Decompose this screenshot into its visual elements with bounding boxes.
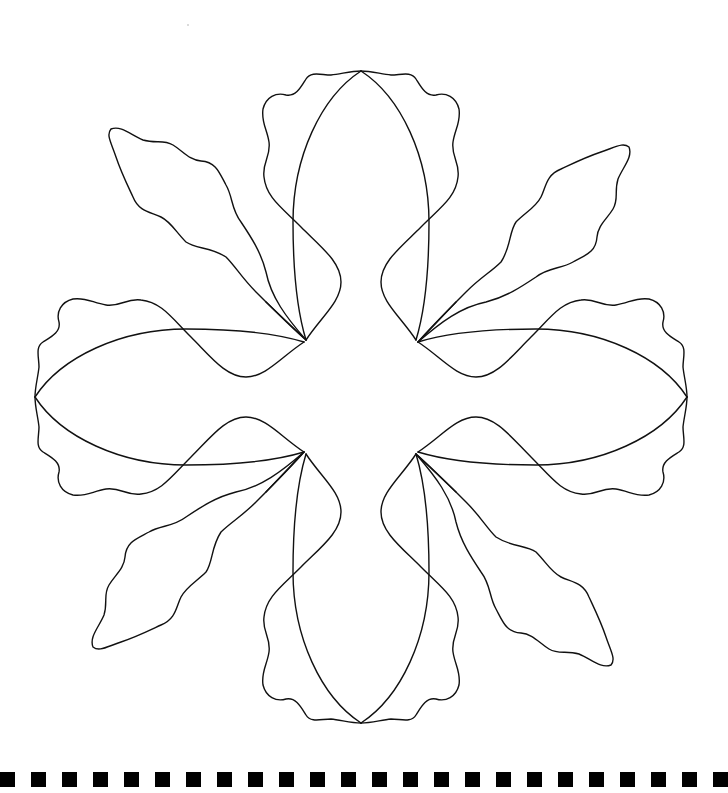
border-square: [62, 772, 77, 787]
dashed-border: [0, 772, 723, 788]
border-square: [403, 772, 418, 787]
border-square: [558, 772, 573, 787]
border-square: [589, 772, 604, 787]
border-square: [31, 772, 46, 787]
border-square: [372, 772, 387, 787]
border-square: [248, 772, 263, 787]
border-square: [496, 772, 511, 787]
border-square: [713, 772, 728, 787]
scan-speck: [187, 24, 189, 26]
border-square: [682, 772, 697, 787]
border-square: [310, 772, 325, 787]
border-square: [124, 772, 139, 787]
border-square: [217, 772, 232, 787]
flower-motif: [35, 71, 687, 723]
border-square: [155, 772, 170, 787]
quadrant-left: [35, 299, 304, 649]
quadrant-bottom: [263, 454, 613, 723]
border-square: [279, 772, 294, 787]
border-square: [341, 772, 356, 787]
border-square: [186, 772, 201, 787]
border-square: [527, 772, 542, 787]
border-square: [434, 772, 449, 787]
border-square: [465, 772, 480, 787]
border-square: [620, 772, 635, 787]
border-square: [0, 772, 15, 787]
quadrant-right: [418, 145, 687, 495]
border-square: [93, 772, 108, 787]
quadrant-top: [109, 71, 459, 340]
border-square: [651, 772, 666, 787]
